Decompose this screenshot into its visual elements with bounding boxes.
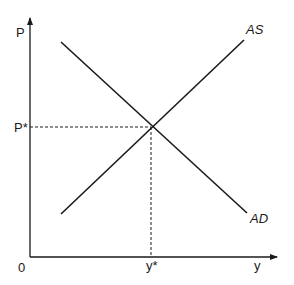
y-axis-label: P: [16, 25, 25, 40]
ad-curve-label: AD: [249, 211, 268, 226]
as-ad-diagram: P P* 0 y* y AS AD: [0, 0, 294, 285]
as-curve-label: AS: [245, 22, 264, 37]
equilibrium-price-label: P*: [14, 120, 28, 135]
x-axis-label: y: [254, 258, 261, 273]
as-curve: [61, 40, 244, 214]
equilibrium-output-label: y*: [146, 258, 158, 273]
origin-label: 0: [18, 260, 25, 275]
